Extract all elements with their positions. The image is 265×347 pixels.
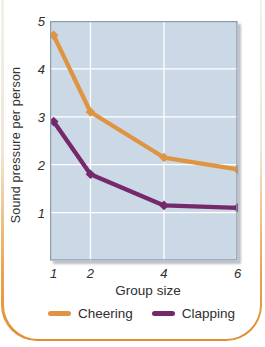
legend-item-cheering: Cheering	[48, 306, 133, 321]
legend-swatch	[152, 311, 175, 316]
legend-item-clapping: Clapping	[152, 306, 235, 321]
x-axis-title: Group size	[115, 283, 180, 298]
x-tick-label: 6	[234, 266, 241, 281]
line-chart: Sound pressure per person Group size Che…	[0, 0, 265, 347]
legend: CheeringClapping	[48, 306, 235, 321]
legend-swatch	[48, 311, 71, 316]
y-tick-label: 5	[38, 14, 45, 29]
y-tick-label: 3	[38, 109, 45, 124]
y-tick-label: 1	[38, 205, 45, 220]
x-tick-label: 2	[87, 266, 94, 281]
x-tick-label: 4	[160, 266, 167, 281]
legend-label: Cheering	[78, 306, 133, 321]
y-tick-label: 2	[38, 157, 45, 172]
plot-area	[50, 21, 238, 261]
y-axis-title: Sound pressure per person	[9, 67, 23, 223]
plot-background	[50, 21, 238, 261]
y-tick-label: 4	[38, 61, 45, 76]
x-tick-label: 1	[50, 266, 57, 281]
legend-label: Clapping	[182, 306, 235, 321]
